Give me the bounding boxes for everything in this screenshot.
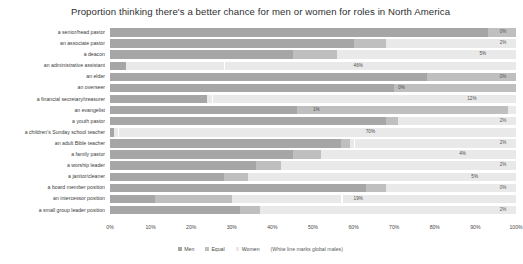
bar-segment-equal xyxy=(394,84,516,92)
bar-row-label: a worship leader xyxy=(0,160,105,171)
legend-item-men[interactable]: Men xyxy=(178,246,194,252)
bar-segment-women xyxy=(260,206,516,214)
chart-legend: MenEqualWomen(White line marks global ma… xyxy=(0,246,521,252)
bar-row: an evangelist1% xyxy=(0,105,521,116)
bar-segment-equal xyxy=(293,150,321,158)
bar-row: a children's Sunday school teacher70% xyxy=(0,127,521,138)
bar-track: 0% xyxy=(110,28,516,36)
bar-row: a board member position0% xyxy=(0,182,521,193)
x-axis: 0%10%20%30%40%50%60%70%80%90%100% xyxy=(110,224,516,236)
legend-item-equal[interactable]: Equal xyxy=(205,246,224,252)
bar-value-label: 46% xyxy=(354,62,363,70)
legend-note: (White line marks global males) xyxy=(271,246,343,252)
bar-value-label: 4% xyxy=(459,150,466,158)
bar-value-label: 2% xyxy=(500,139,507,147)
x-axis-tick: 0% xyxy=(106,224,113,230)
bar-value-label: 70% xyxy=(366,128,375,136)
bar-segment-men xyxy=(110,62,126,70)
bar-value-label: 19% xyxy=(354,195,363,203)
bar-value-label: 0% xyxy=(500,73,507,81)
bar-segment-men xyxy=(110,84,394,92)
bar-segment-equal xyxy=(240,206,260,214)
bar-value-label: 5% xyxy=(479,50,486,58)
bar-row-label: a financial secretary/treasurer xyxy=(0,94,105,105)
bar-row: an elder0% xyxy=(0,71,521,82)
bar-segment-men xyxy=(110,117,386,125)
bar-row-label: an elder xyxy=(0,71,105,82)
x-axis-tick: 50% xyxy=(308,224,318,230)
global-male-marker xyxy=(118,128,119,137)
legend-item-label: Women xyxy=(242,246,260,252)
bar-row: an administrative assistant46% xyxy=(0,60,521,71)
bar-segment-equal xyxy=(293,50,338,58)
bar-track: 2% xyxy=(110,117,516,125)
bar-segment-men xyxy=(110,50,293,58)
bar-segment-men xyxy=(110,28,488,36)
bar-segment-men xyxy=(110,139,341,147)
bar-segment-women xyxy=(281,161,516,169)
bar-row: a financial secretary/treasurer12% xyxy=(0,94,521,105)
legend-item-label: Equal xyxy=(211,246,224,252)
bar-row-label: an overseer xyxy=(0,82,105,93)
bar-segment-men xyxy=(110,206,240,214)
bar-row: a janitor/cleaner5% xyxy=(0,171,521,182)
bar-row: a youth pastor2% xyxy=(0,116,521,127)
bar-track: 70% xyxy=(110,128,516,136)
bar-value-label: 0% xyxy=(398,84,405,92)
x-axis-tick: 20% xyxy=(186,224,196,230)
bar-track: 5% xyxy=(110,50,516,58)
bar-row-label: a children's Sunday school teacher xyxy=(0,127,105,138)
bar-segment-men xyxy=(110,184,366,192)
bar-track: 4% xyxy=(110,150,516,158)
bar-segment-equal xyxy=(386,117,398,125)
x-axis-tick: 80% xyxy=(430,224,440,230)
bar-row: a family pastor4% xyxy=(0,149,521,160)
bar-track: 46% xyxy=(110,62,516,70)
bar-row-label: a janitor/cleaner xyxy=(0,171,105,182)
bar-row-label: an administrative assistant xyxy=(0,60,105,71)
bar-row: an adult Bible teacher2% xyxy=(0,138,521,149)
bar-row-label: a deacon xyxy=(0,49,105,60)
x-axis-tick: 100% xyxy=(509,224,522,230)
legend-item-women[interactable]: Women xyxy=(236,246,260,252)
bar-track: 0% xyxy=(110,184,516,192)
bar-track: 2% xyxy=(110,39,516,47)
plot-area: a senior/head pastor0%an associate pasto… xyxy=(0,27,521,221)
bar-row-label: an intercessor position xyxy=(0,193,105,204)
bar-segment-women xyxy=(114,128,516,136)
bar-segment-women xyxy=(508,106,516,114)
bar-track: 1% xyxy=(110,106,516,114)
global-male-marker xyxy=(212,94,213,103)
global-male-marker xyxy=(341,194,342,203)
bar-value-label: 12% xyxy=(467,95,476,103)
global-male-marker xyxy=(224,61,225,70)
bar-segment-men xyxy=(110,73,427,81)
chart-title: Proportion thinking there's a better cha… xyxy=(0,6,521,17)
bar-segment-equal xyxy=(366,184,386,192)
bar-row-label: a board member position xyxy=(0,182,105,193)
bar-segment-men xyxy=(110,173,224,181)
bar-segment-women xyxy=(386,39,516,47)
bar-segment-men xyxy=(110,195,155,203)
x-axis-tick: 30% xyxy=(227,224,237,230)
bar-value-label: 2% xyxy=(500,161,507,169)
bar-value-label: 5% xyxy=(471,173,478,181)
bar-value-label: 2% xyxy=(500,39,507,47)
bar-row-label: an associate pastor xyxy=(0,38,105,49)
bar-value-label: 0% xyxy=(500,28,507,36)
bar-track: 2% xyxy=(110,161,516,169)
bar-row: a worship leader2% xyxy=(0,160,521,171)
x-axis-tick: 90% xyxy=(470,224,480,230)
global-male-marker xyxy=(354,139,355,148)
bar-row-label: a youth pastor xyxy=(0,116,105,127)
bar-row: an intercessor position19% xyxy=(0,193,521,204)
bar-segment-equal xyxy=(155,195,232,203)
bar-track: 0% xyxy=(110,73,516,81)
bar-segment-equal xyxy=(354,39,386,47)
bar-segment-women xyxy=(126,62,516,70)
bar-row-label: a senior/head pastor xyxy=(0,27,105,38)
legend-swatch-icon xyxy=(178,247,182,251)
bar-segment-equal xyxy=(256,161,280,169)
bar-segment-women xyxy=(350,139,516,147)
